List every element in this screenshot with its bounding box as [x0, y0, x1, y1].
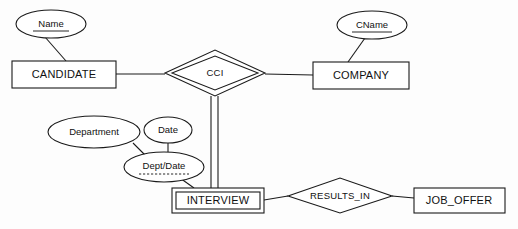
attribute-date-label: Date [158, 124, 178, 135]
entity-job-offer-label: JOB_OFFER [426, 194, 493, 206]
attribute-dept-date[interactable]: Dept/Date [124, 152, 204, 182]
relationship-cci-label: CCI [207, 67, 224, 78]
entity-candidate-label: CANDIDATE [32, 68, 97, 80]
relationship-results-in[interactable]: RESULTS_IN [288, 178, 392, 213]
connector-resultsin-joboffer [392, 196, 414, 198]
connector-cname-company [348, 38, 365, 62]
connector-cci-interview [211, 96, 218, 188]
attribute-cname[interactable]: CName [337, 11, 407, 39]
attribute-cname-label: CName [356, 19, 388, 30]
relationship-results-in-label: RESULTS_IN [310, 190, 370, 201]
attribute-date[interactable]: Date [144, 117, 192, 143]
attribute-department[interactable]: Department [48, 116, 140, 148]
connector-name-candidate [45, 37, 66, 61]
entity-job-offer[interactable]: JOB_OFFER [414, 188, 505, 213]
er-diagram-canvas: Name CName Department Date Dept/Date [0, 0, 518, 229]
entity-interview[interactable]: INTERVIEW [172, 188, 264, 213]
attribute-name[interactable]: Name [16, 10, 86, 38]
entity-company-label: COMPANY [333, 69, 390, 81]
entity-interview-label: INTERVIEW [187, 194, 250, 206]
connector-interview-resultsin [264, 196, 288, 200]
attribute-department-label: Department [69, 126, 119, 137]
entity-candidate[interactable]: CANDIDATE [12, 61, 116, 88]
attribute-dept-date-label: Dept/Date [143, 160, 186, 171]
relationship-cci[interactable]: CCI [165, 50, 265, 96]
er-diagram-svg: Name CName Department Date Dept/Date [0, 0, 518, 229]
entity-company[interactable]: COMPANY [313, 62, 409, 89]
attribute-name-label: Name [38, 18, 63, 29]
connector-cci-company [265, 74, 313, 75]
